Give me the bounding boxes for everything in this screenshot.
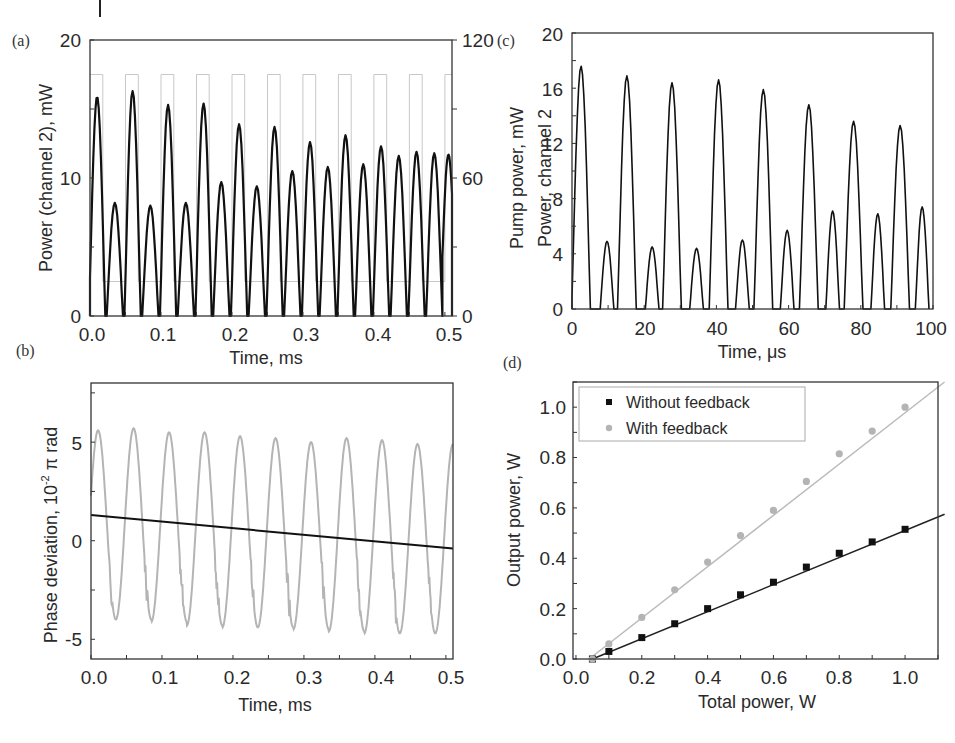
panel-a: (a) 0 10 20 0 60 120 0.0 0.1 0.2 0.3 0.4… [12,30,527,368]
panel-a-ytick-20: 20 [60,30,81,51]
panel-b: (b) -5 0 5 0.0 0.1 0.2 0.3 0.4 0.5 Time,… [16,342,464,715]
panel-b-xtick: 0.1 [152,667,178,688]
data-point-circle [737,532,744,539]
panel-c-ylabel: Power, channel 2 [535,109,555,247]
panel-c-xlabel: Time, μs [718,342,787,362]
panel-c-xtick: 40 [706,318,727,339]
panel-d-ytick: 1.0 [540,397,566,418]
panel-b-xtick: 0.4 [368,667,395,688]
legend-marker-square-icon [606,399,612,405]
data-point-circle [901,404,908,411]
panel-d-xtick: 0.6 [761,667,787,688]
panel-d-xtick: 0.2 [629,667,655,688]
data-point-circle [671,586,678,593]
panel-b-ytick: 5 [71,433,82,454]
legend-label-with-feedback: With feedback [626,420,728,437]
panel-a-xtick: 0.5 [436,324,462,345]
panel-b-ylabel-main: Phase deviation, 10 [41,485,61,643]
panel-d-ytick: 0.6 [540,498,566,519]
panel-c-xtick: 0 [567,318,578,339]
panel-a-xtick-labels: 0.0 0.1 0.2 0.3 0.4 0.5 [79,324,462,345]
panel-d-ytick: 0.2 [540,599,566,620]
panel-c-ticks [572,33,933,309]
legend-marker-circle-icon [606,425,612,431]
panel-b-xtick: 0.2 [224,667,250,688]
data-point-circle [638,614,645,621]
panel-a-xtick: 0.4 [365,324,392,345]
panel-a-xtick: 0.1 [150,324,176,345]
data-point-square [770,579,777,586]
channel2-power-trace [572,66,929,309]
panel-c-xtick: 100 [915,318,947,339]
panel-b-ytick: -5 [65,629,82,650]
panel-b-xtick: 0.5 [438,667,464,688]
panel-a-ylabel-left: Power (channel 2), mW [36,84,56,272]
figure-canvas: (a) 0 10 20 0 60 120 0.0 0.1 0.2 0.3 0.4… [0,0,955,743]
linear-trend-line [91,515,453,549]
panel-b-ylabel-sup: -2 [39,475,51,485]
panel-d-xtick: 0.4 [695,667,722,688]
panel-a-ytick-right-60: 60 [462,168,483,189]
panel-c-plot-area [572,66,929,309]
panel-a-xlabel: Time, ms [229,348,302,368]
panel-d-xtick: 0.0 [563,667,589,688]
data-point-circle [803,478,810,485]
panel-a-xtick: 0.0 [79,324,105,345]
panel-a-xtick: 0.3 [293,324,319,345]
panel-d: (d) Without feedback With feedback 0.0 0… [503,354,945,712]
data-point-circle [605,640,612,647]
panel-a-plot-area [90,75,452,317]
data-point-square [704,605,711,612]
panel-d-ylabel: Output power, W [504,453,524,587]
legend-label-without-feedback: Without feedback [626,394,751,411]
data-point-circle [770,507,777,514]
data-point-circle [704,558,711,565]
panel-c-xtick: 80 [850,318,871,339]
panel-d-ytick: 0.4 [540,548,567,569]
data-point-square [803,564,810,571]
panel-a-letter: (a) [12,32,30,50]
panel-b-letter: (b) [16,342,35,360]
phase-deviation-trace [91,428,453,633]
panel-b-ylabel: Phase deviation, 10-2 π rad [39,427,61,643]
data-point-circle [869,428,876,435]
panel-c-ytick: 0 [552,299,563,320]
data-point-square [638,634,645,641]
panel-b-ytick: 0 [71,531,82,552]
channel2-power-trace [90,91,452,316]
panel-d-xtick: 0.8 [826,667,852,688]
panel-b-ylabel-tail: π rad [41,427,61,475]
panel-c: (c) 0 4 8 12 16 20 0 20 40 60 80 100 Tim… [497,24,947,362]
panel-a-ytick-right-120: 120 [462,30,494,51]
panel-d-xtick: 1.0 [892,667,918,688]
panel-a-ytick-10: 10 [60,168,81,189]
panel-a-ytick-right-0: 0 [462,306,473,327]
data-point-square [869,538,876,545]
data-point-square [836,550,843,557]
data-point-circle [836,450,843,457]
panel-d-ytick: 0.8 [540,447,566,468]
panel-d-legend: Without feedback With feedback [579,387,805,441]
panel-b-ticks [91,393,446,659]
panel-c-ytick: 16 [542,79,563,100]
panel-a-ylabel-right: Pump power, mW [507,107,527,249]
data-point-square [902,526,909,533]
data-point-square [737,591,744,598]
panel-b-xtick: 0.3 [296,667,322,688]
panel-a-xtick: 0.2 [222,324,248,345]
panel-d-xlabel: Total power, W [698,692,816,712]
panel-b-xtick: 0.0 [81,667,107,688]
panel-b-xlabel: Time, ms [238,695,311,715]
panel-c-frame [572,33,933,309]
panel-d-letter: (d) [503,354,522,372]
data-point-square [671,620,678,627]
panel-c-letter: (c) [497,32,515,50]
panel-c-ytick: 20 [542,24,563,45]
panel-c-xtick: 20 [634,318,655,339]
panel-b-plot-area [91,428,453,633]
data-point-square [605,648,612,655]
panel-c-xtick: 60 [778,318,799,339]
